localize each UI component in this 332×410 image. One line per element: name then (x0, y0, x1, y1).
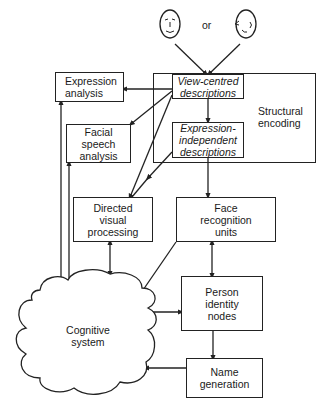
frontal-face-icon (160, 10, 180, 38)
directed-visual-processing-box: Directed visual processing (73, 197, 153, 242)
name-generation-box: Name generation (186, 358, 263, 398)
person-identity-nodes-box: Person identity nodes (181, 276, 263, 331)
connector-lines (0, 0, 332, 410)
or-connector-label: or (202, 19, 211, 31)
facial-speech-analysis-box: Facial speech analysis (66, 124, 131, 163)
cognitive-system-label: Cognitive system (58, 324, 118, 348)
expression-analysis-box: Expression analysis (55, 72, 124, 102)
view-centred-descriptions-box: View-centred descriptions (172, 74, 244, 99)
structural-encoding-label: Structural encoding (258, 105, 303, 129)
face-recognition-units-box: Face recognition units (176, 197, 276, 242)
profile-face-icon (235, 10, 256, 38)
expression-independent-descriptions-box: Expression- independent descriptions (172, 122, 244, 158)
